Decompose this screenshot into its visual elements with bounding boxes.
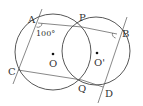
label-p: P — [79, 12, 86, 23]
angle-label-100: 100° — [36, 29, 55, 38]
circle-o-prime — [62, 17, 130, 85]
label-o-prime: O' — [94, 57, 105, 68]
circle-o — [15, 14, 91, 90]
angle-mark-a — [37, 23, 43, 27]
label-d: D — [105, 88, 113, 99]
center-dot-o-prime — [96, 52, 99, 55]
geometry-diagram: A P B C Q D O O' 100° — [0, 0, 143, 106]
label-q: Q — [78, 83, 86, 94]
label-a: A — [27, 14, 36, 25]
label-b: B — [122, 28, 129, 39]
center-dot-o — [52, 53, 55, 56]
segment-pb — [82, 27, 117, 34]
label-c: C — [8, 66, 16, 77]
label-o: O — [49, 58, 57, 69]
